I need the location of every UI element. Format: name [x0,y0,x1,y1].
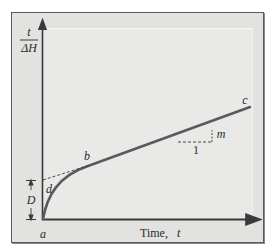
intercept-label-D: D [26,193,36,207]
point-label-b: b [84,149,90,163]
point-label-d: d [46,182,53,196]
y-axis-label-numerator: t [27,25,31,39]
point-label-c: c [242,93,248,107]
diagram-svg: t ΔH a b c d D m 1 Time, t [0,0,278,252]
x-axis-label-var: t [177,226,181,240]
run-label-1: 1 [193,143,199,157]
y-axis-label-denominator: ΔH [20,41,38,55]
x-axis-label-word: Time, [140,226,168,240]
slope-label-m: m [217,127,226,141]
point-label-a: a [40,227,46,241]
data-curve [43,107,250,219]
